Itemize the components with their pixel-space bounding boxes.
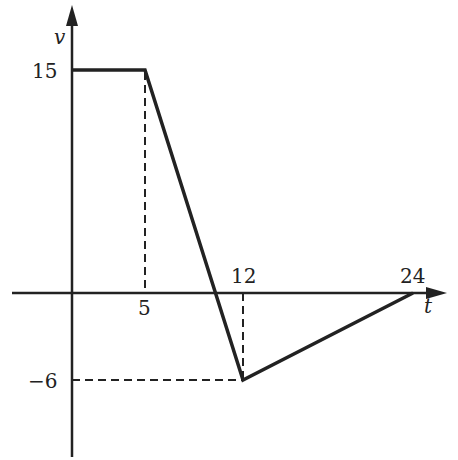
tick-label-5: 5	[138, 296, 151, 320]
tick-label-12: 12	[231, 264, 256, 288]
tick-label-15: 15	[32, 59, 57, 83]
velocity-time-graph: 15 −6 5 12 24 v t	[0, 0, 458, 460]
tick-label-neg6: −6	[28, 369, 57, 393]
y-axis-arrow-icon	[66, 5, 78, 26]
tick-label-24: 24	[400, 264, 425, 288]
x-axis-label: t	[424, 294, 433, 318]
y-axis-label: v	[54, 25, 66, 49]
